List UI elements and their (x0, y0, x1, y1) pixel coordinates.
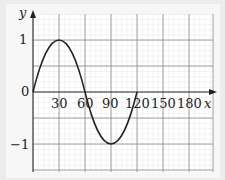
x-tick-60: 60 (77, 97, 94, 110)
y-tick-0: 0 (21, 85, 29, 98)
y-axis-label: y (19, 6, 26, 19)
x-tick-90: 90 (102, 97, 119, 110)
y-tick-1: 1 (19, 33, 27, 46)
minor-grid (33, 14, 213, 172)
x-tick-120: 120 (125, 97, 150, 110)
chart-plot (0, 0, 225, 180)
x-tick-180: 180 (177, 97, 202, 110)
y-tick-minus-1: −1 (10, 138, 29, 151)
x-tick-150: 150 (151, 97, 176, 110)
x-axis-label: x (204, 97, 211, 110)
x-tick-30: 30 (51, 97, 68, 110)
